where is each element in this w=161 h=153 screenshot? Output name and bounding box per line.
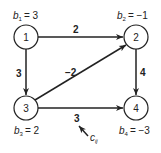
edge-label-3-4: 3 (74, 113, 80, 124)
node-3-supply: b3= 2 (14, 125, 40, 137)
node-3: 3 b3= 2 (14, 96, 40, 137)
supply-value: = 3 (24, 10, 39, 21)
node-4-label: 4 (133, 103, 139, 114)
supply-sub: 1 (19, 16, 23, 22)
node-2: 2 b2= −1 (117, 10, 148, 49)
supply-value: = −3 (130, 125, 150, 136)
node-2-label: 2 (133, 32, 139, 43)
edge-label-3-2: −2 (65, 67, 77, 78)
network-diagram: 2 3 −2 4 3 cij 1 b1= 3 2 b2= −1 3 b3= 2 … (0, 0, 161, 153)
supply-value: = 2 (25, 125, 40, 136)
node-4-supply: b4= −3 (119, 125, 150, 137)
node-2-supply: b2= −1 (117, 10, 148, 22)
node-1: 1 b1= 3 (13, 10, 39, 49)
edge-3-2 (35, 45, 126, 100)
edge-label-1-2: 2 (73, 24, 79, 35)
cost-annotation-sub: ij (95, 138, 98, 144)
node-1-supply: b1= 3 (13, 10, 39, 22)
cij-pointer-arrow (79, 126, 88, 136)
edge-label-2-4: 4 (140, 67, 146, 78)
cost-annotation: cij (90, 132, 98, 144)
edge-label-1-3: 3 (16, 68, 22, 79)
supply-sub: 3 (20, 131, 24, 137)
node-4: 4 b4= −3 (119, 96, 150, 137)
supply-sub: 4 (125, 131, 129, 137)
supply-sub: 2 (123, 16, 127, 22)
node-1-label: 1 (23, 32, 29, 43)
supply-value: = −1 (128, 10, 148, 21)
edges (26, 37, 136, 136)
node-3-label: 3 (23, 103, 29, 114)
